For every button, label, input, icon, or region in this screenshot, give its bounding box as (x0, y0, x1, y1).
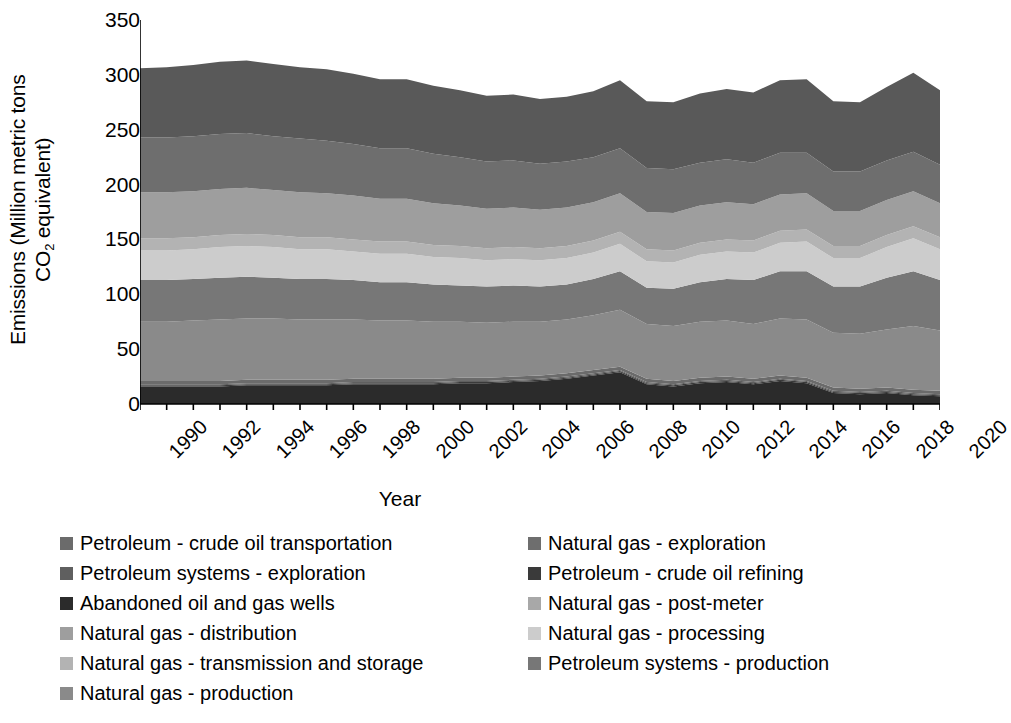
y-axis-tick-label: 150 (88, 228, 140, 249)
y-axis-title-co: CO (30, 251, 53, 282)
legend-label: Natural gas - exploration (548, 533, 766, 553)
legend-item[interactable]: Petroleum systems - production (528, 648, 829, 678)
y-axis-tick-label: 300 (88, 64, 140, 85)
y-axis-title-tail: equivalent) (30, 138, 53, 244)
x-axis-tick-label: 1998 (378, 416, 424, 462)
x-axis-tick-label: 2000 (432, 416, 478, 462)
legend-item[interactable]: Natural gas - post-meter (528, 588, 829, 618)
x-axis-tick-label: 2018 (912, 416, 958, 462)
legend-item[interactable]: Abandoned oil and gas wells (60, 588, 424, 618)
x-axis-tick-label: 2016 (858, 416, 904, 462)
legend-swatch-icon (60, 657, 73, 670)
x-axis-tick-label: 2012 (752, 416, 798, 462)
x-axis-tick-label: 1992 (218, 416, 264, 462)
y-axis-title-line1: Emissions (Million metric tons (5, 75, 28, 346)
legend-item[interactable]: Natural gas - production (60, 678, 424, 708)
x-axis-tick-label: 1996 (325, 416, 371, 462)
y-axis-tick-label: 100 (88, 283, 140, 304)
x-axis-tick-label: 2010 (698, 416, 744, 462)
x-axis-tick-label: 2004 (538, 416, 584, 462)
legend-item[interactable]: Natural gas - transmission and storage (60, 648, 424, 678)
legend-label: Petroleum systems - exploration (80, 563, 366, 583)
stacked-area-svg (140, 20, 940, 410)
legend-swatch-icon (60, 687, 73, 700)
x-axis-tick-label: 1994 (272, 416, 318, 462)
legend-label: Natural gas - processing (548, 623, 765, 643)
legend-swatch-icon (528, 537, 541, 550)
legend-column-right: Natural gas - explorationPetroleum - cru… (528, 528, 829, 678)
legend-label: Petroleum - crude oil refining (548, 563, 804, 583)
y-axis-title: Emissions (Million metric tons CO2 equiv… (0, 0, 60, 420)
legend-swatch-icon (528, 627, 541, 640)
legend-swatch-icon (60, 597, 73, 610)
x-axis-tick-label: 2020 (965, 416, 1011, 462)
legend-swatch-icon (60, 537, 73, 550)
legend-label: Petroleum - crude oil transportation (80, 533, 392, 553)
x-axis-title: Year (0, 487, 800, 511)
legend-item[interactable]: Natural gas - distribution (60, 618, 424, 648)
x-axis-tick-labels: 1990199219941996199820002002200420062008… (0, 404, 968, 484)
legend-item[interactable]: Natural gas - exploration (528, 528, 829, 558)
legend-item[interactable]: Natural gas - processing (528, 618, 829, 648)
legend-label: Natural gas - post-meter (548, 593, 764, 613)
legend-label: Natural gas - transmission and storage (80, 653, 424, 673)
legend-swatch-icon (528, 567, 541, 580)
y-axis-tick-label: 350 (88, 9, 140, 30)
y-axis-tick-label: 250 (88, 119, 140, 140)
chart-legend: Petroleum - crude oil transportationPetr… (0, 528, 968, 718)
x-axis-tick-label: 2006 (592, 416, 638, 462)
y-axis-tick-labels: 050100150200250300350 (56, 0, 140, 420)
y-axis-title-subscript: 2 (41, 244, 56, 251)
x-axis-tick-label: 2008 (645, 416, 691, 462)
legend-item[interactable]: Petroleum systems - exploration (60, 558, 424, 588)
x-axis-tick-label: 2014 (805, 416, 851, 462)
legend-label: Natural gas - production (80, 683, 293, 703)
plot-area (140, 20, 940, 414)
legend-label: Natural gas - distribution (80, 623, 297, 643)
legend-item[interactable]: Petroleum - crude oil refining (528, 558, 829, 588)
legend-label: Abandoned oil and gas wells (80, 593, 335, 613)
legend-swatch-icon (60, 567, 73, 580)
legend-column-left: Petroleum - crude oil transportationPetr… (60, 528, 424, 708)
y-axis-tick-label: 200 (88, 174, 140, 195)
legend-swatch-icon (528, 597, 541, 610)
x-axis-tick-label: 2002 (485, 416, 531, 462)
legend-swatch-icon (528, 657, 541, 670)
legend-label: Petroleum systems - production (548, 653, 829, 673)
x-axis-tick-label: 1990 (165, 416, 211, 462)
legend-swatch-icon (60, 627, 73, 640)
legend-item[interactable]: Petroleum - crude oil transportation (60, 528, 424, 558)
y-axis-tick-label: 50 (88, 338, 140, 359)
